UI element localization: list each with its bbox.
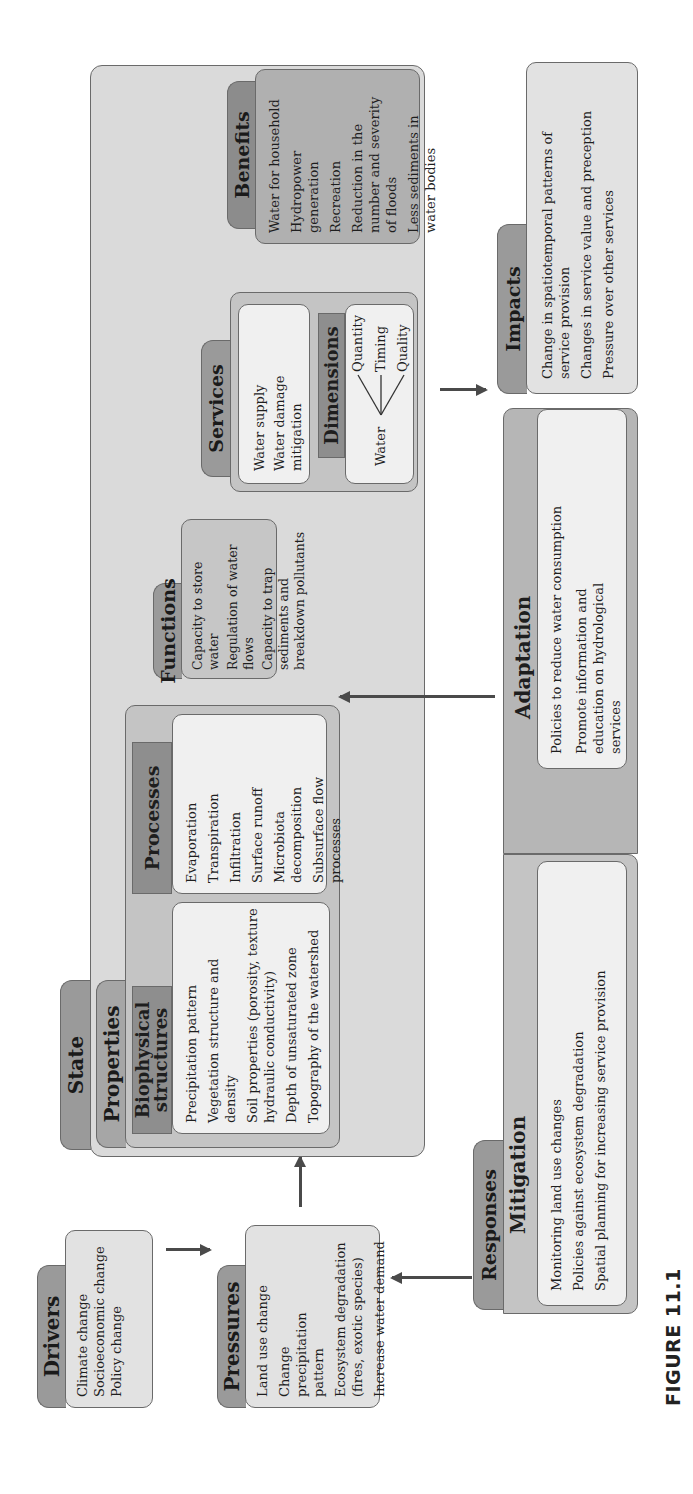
drivers-box: Climate change Socioeconomic change Poli… (65, 1230, 153, 1408)
pressures-box: Land use change Change precipitation pat… (245, 1225, 380, 1408)
pressures-item: Land use change (254, 1236, 271, 1397)
processes-box: Evaporation Transpiration Infiltration S… (172, 714, 327, 894)
functions-item: Regulation of water flows (225, 528, 257, 670)
responses-title: Responses (478, 1169, 500, 1281)
biophysical-item: Topography of the watershed (305, 913, 322, 1123)
services-tab: Services (201, 340, 230, 477)
processes-item: Infiltration (227, 725, 244, 883)
arrow-drivers-to-pressures (166, 1248, 210, 1251)
dimension-timing: Timing (373, 326, 388, 372)
pressures-title: Pressures (220, 1282, 244, 1392)
state-title: State (64, 1036, 88, 1095)
biophysical-item: Depth of unsaturated zone (283, 913, 300, 1123)
dimension-quality: Quality (395, 324, 410, 372)
biophysical-item: Precipitation pattern (183, 913, 200, 1123)
biophysical-box: Precipitation pattern Vegetation structu… (172, 902, 330, 1134)
benefits-item: Water for household (266, 80, 283, 233)
processes-item: Surface runoff (249, 725, 266, 883)
pressures-item: Ecosystem degradation (fires, exotic spe… (332, 1242, 366, 1397)
figure-caption: FIGURE 11.1 (662, 1268, 684, 1406)
dimension-root: Water (373, 427, 388, 466)
arrow-services-to-impacts (440, 388, 486, 391)
arrow-adaptation-to-processes (340, 695, 495, 698)
benefits-item: Recreation (327, 80, 344, 233)
functions-tab: Functions (153, 583, 182, 679)
functions-title: Functions (157, 578, 179, 684)
adaptation-item: Promote information and education on hyd… (573, 534, 624, 754)
benefits-item: Reduction in the number and severity of … (349, 83, 400, 233)
biophysical-item: Soil properties (porosity, texture hydra… (244, 908, 278, 1123)
services-item: Water supply (251, 317, 268, 471)
processes-item: Microbiota decomposition (271, 725, 305, 883)
impacts-tab: Impacts (497, 224, 527, 394)
drivers-tab: Drivers (37, 1265, 66, 1408)
biophysical-item: Vegetation structure and density (205, 913, 239, 1123)
dimension-quantity: Quantity (350, 315, 365, 372)
adaptation-title: Adaptation (511, 519, 535, 719)
services-title: Services (205, 364, 227, 452)
benefits-box: Water for household Hydropower generatio… (255, 69, 420, 244)
mitigation-box: Monitoring land use changes Policies aga… (537, 861, 627, 1306)
pressures-tab: Pressures (217, 1265, 246, 1408)
dimensions-title: Dimensions (323, 326, 341, 444)
impacts-item: Pressure over other services (600, 77, 617, 379)
drivers-title: Drivers (40, 1296, 64, 1378)
processes-title: Processes (143, 766, 162, 871)
impacts-item: Changes in service value and preception (578, 77, 595, 379)
biophysical-title-line2: structures (152, 1008, 170, 1112)
processes-item: Transpiration (205, 725, 222, 883)
processes-item: Subsurface flow processes (310, 725, 344, 883)
mitigation-title: Mitigation (506, 1034, 530, 1234)
dpsir-diagram: Drivers Climate change Socioeconomic cha… (0, 0, 693, 1494)
responses-tab: Responses (473, 1140, 503, 1310)
drivers-item: Climate change (74, 1241, 91, 1397)
functions-item: Capacity to trap sediments and breakdown… (260, 528, 308, 670)
adaptation-box: Policies to reduce water consumption Pro… (537, 409, 627, 769)
pressures-item: Change precipitation pattern (276, 1277, 327, 1397)
impacts-item: Change in spatiotemporal patterns of ser… (539, 99, 573, 379)
services-item: Water damage mitigation (271, 317, 305, 471)
adaptation-item: Policies to reduce water consumption (548, 424, 565, 754)
services-box: Water supply Water damage mitigation (238, 304, 310, 484)
mitigation-item: Spatial planning for increasing service … (592, 876, 609, 1291)
benefits-tab: Benefits (227, 81, 256, 229)
processes-item: Evaporation (183, 725, 200, 883)
mitigation-item: Policies against ecosystem degradation (570, 876, 587, 1291)
arrow-pressures-to-state (299, 1157, 302, 1207)
benefits-title: Benefits (231, 111, 253, 198)
properties-tab: Properties (96, 980, 126, 1148)
state-tab: State (60, 980, 91, 1150)
arrow-responses-to-pressures (392, 1276, 472, 1279)
biophysical-tab: Biophysical structures (132, 986, 172, 1134)
properties-title: Properties (100, 1006, 124, 1123)
processes-tab: Processes (132, 742, 172, 894)
mitigation-item: Monitoring land use changes (548, 876, 565, 1291)
functions-box: Capacity to store water Regulation of wa… (181, 519, 277, 679)
functions-item: Capacity to store water (190, 528, 222, 670)
drivers-item: Socioeconomic change (91, 1241, 108, 1397)
impacts-box: Change in spatiotemporal patterns of ser… (526, 62, 638, 394)
impacts-title: Impacts (502, 266, 524, 352)
benefits-item: Hydropower generation (288, 80, 322, 233)
benefits-item: Less sediments in water bodies (405, 80, 439, 233)
dimensions-tab: Dimensions (318, 313, 345, 458)
dimension-branches (350, 369, 410, 419)
drivers-item: Policy change (108, 1241, 125, 1397)
pressures-item: Increase water demand (371, 1236, 388, 1397)
